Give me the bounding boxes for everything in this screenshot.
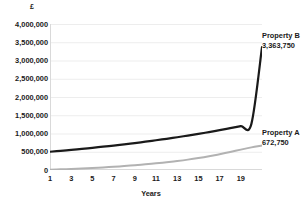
y-tick-label: 3,000,000 [2, 56, 48, 65]
x-tick-label: 1 [43, 174, 57, 183]
x-tick-label: 13 [170, 174, 184, 183]
x-tick-label: 7 [107, 174, 121, 183]
series-annotation-property-a: Property A 672,750 [262, 128, 300, 148]
x-tick-label: 3 [64, 174, 78, 183]
y-tick-label: 1,000,000 [2, 129, 48, 138]
y-tick-label: 0 [2, 166, 48, 175]
series-a-value: 672,750 [262, 138, 300, 148]
y-tick-label: 500,000 [2, 147, 48, 156]
series-annotation-property-b: Property B 3,363,750 [262, 31, 300, 51]
series-b-value: 3,363,750 [262, 41, 300, 51]
x-axis-title: Years [0, 189, 307, 198]
y-tick-label: 1,500,000 [2, 111, 48, 120]
x-axis-title-text: Years [141, 189, 161, 198]
plot-svg [50, 24, 262, 170]
x-tick-label: 19 [234, 174, 248, 183]
y-tick-label: 3,500,000 [2, 38, 48, 47]
property-growth-chart: £ 0500,0001,000,0001,500,0002,000,0002,5… [0, 0, 307, 205]
x-tick-label: 9 [128, 174, 142, 183]
series-lines [50, 47, 262, 169]
series-a-name: Property A [262, 128, 300, 138]
gridlines [50, 25, 262, 153]
series-b-name: Property B [262, 31, 300, 41]
y-axis-tick-labels: 0500,0001,000,0001,500,0002,000,0002,500… [0, 0, 48, 205]
plot-area [50, 24, 262, 170]
y-tick-label: 2,500,000 [2, 74, 48, 83]
y-tick-label: 2,000,000 [2, 93, 48, 102]
x-tick-label: 15 [191, 174, 205, 183]
y-tick-label: 4,000,000 [2, 20, 48, 29]
x-tick-label: 17 [213, 174, 227, 183]
x-tick-label: 5 [85, 174, 99, 183]
series-line-property-b [50, 47, 262, 152]
x-tick-label: 11 [149, 174, 163, 183]
